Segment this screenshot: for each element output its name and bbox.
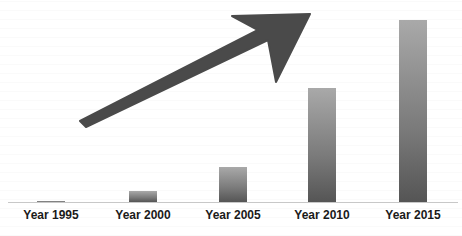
bar-chart: Year 1995Year 2000Year 2005Year 2010Year… [0, 0, 462, 236]
growth-arrow-icon [0, 0, 462, 236]
